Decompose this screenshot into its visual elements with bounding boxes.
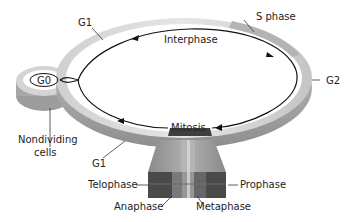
label-g2: G2	[326, 75, 340, 86]
label-g1-bottom: G1	[92, 158, 106, 169]
label-g1-top: G1	[78, 17, 92, 28]
cell-cycle-diagram: G0 G1 S phase Interphase G2 Nondividing …	[0, 0, 358, 222]
label-anaphase: Anaphase	[114, 201, 163, 212]
label-nondividing: Nondividing	[18, 134, 78, 145]
label-metaphase: Metaphase	[196, 201, 251, 212]
label-interphase: Interphase	[164, 34, 218, 45]
label-prophase: Prophase	[240, 179, 286, 190]
label-s-phase: S phase	[256, 11, 296, 22]
label-telophase: Telophase	[87, 179, 138, 190]
label-mitosis: Mitosis	[171, 122, 206, 133]
label-cells: cells	[34, 147, 56, 158]
label-g0: G0	[37, 75, 51, 86]
